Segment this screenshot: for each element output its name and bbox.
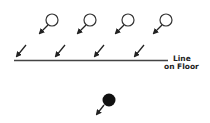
open-circle-icon: [84, 14, 96, 26]
open-marker-1: [40, 14, 58, 33]
arrow-icon: [116, 25, 124, 33]
floor-arrow-3: [95, 45, 104, 56]
floor-arrow-1: [17, 45, 26, 56]
open-circle-icon: [46, 14, 58, 26]
arrow-icon: [78, 25, 86, 33]
open-circle-icon: [122, 14, 134, 26]
open-circle-icon: [160, 14, 172, 26]
floor-arrow-2: [56, 45, 65, 56]
open-marker-3: [116, 14, 134, 33]
floor-line-label-line2: on Floor: [164, 63, 199, 71]
arrow-icon: [97, 105, 104, 114]
filled-marker: [97, 94, 116, 115]
arrow-icon: [154, 25, 162, 33]
arrow-icon: [40, 25, 48, 33]
filled-circle-icon: [103, 94, 116, 107]
floor-arrow-4: [135, 45, 144, 56]
open-marker-2: [78, 14, 96, 33]
open-marker-4: [154, 14, 172, 33]
